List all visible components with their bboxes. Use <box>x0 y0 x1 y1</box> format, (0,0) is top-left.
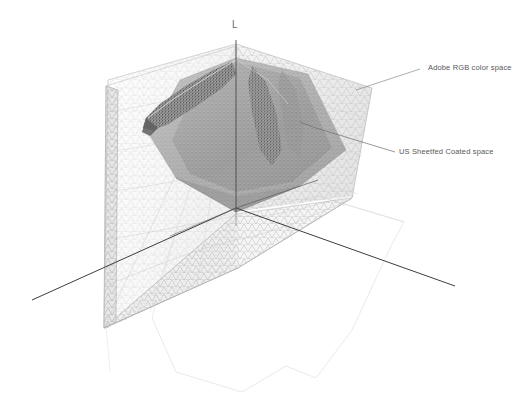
gamut-visualization-canvas: L Adobe RGB color space US Sheetfed Coat… <box>0 0 524 402</box>
annotation-us-sheetfed-label: US Sheetfed Coated space <box>399 148 494 156</box>
leader-line-adobe-rgb <box>356 69 420 90</box>
lightness-axis-label: L <box>232 20 238 30</box>
annotation-adobe-rgb-label: Adobe RGB color space <box>428 64 512 72</box>
gamut-plot-svg <box>0 0 524 402</box>
